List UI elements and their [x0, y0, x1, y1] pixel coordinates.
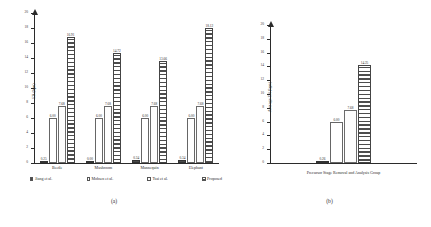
bar-group-a-mushroom: 0.006.007.6814.72Mushroom	[80, 14, 126, 163]
bar-group-a-mannequin: 0.346.007.6813.66Mannequin	[127, 14, 173, 163]
bar-a-0-2[interactable]: 7.68	[58, 106, 66, 163]
bar-a-3-1[interactable]: 6.00	[187, 118, 195, 163]
legend-swatch-icon	[202, 177, 205, 180]
legend-label: Tsai et al.	[152, 177, 167, 181]
plot-area-a: 02468101214161820 ER (bpn) 0.256.007.681…	[34, 14, 219, 164]
y-tick-label-a-14: 14	[24, 56, 28, 60]
bar-value-label: 6.00	[96, 115, 102, 118]
bar-value-label: 0.34	[133, 157, 139, 160]
bar-value-label: 6.00	[142, 115, 148, 118]
figure-root: 02468101214161820 ER (bpn) 0.256.007.681…	[0, 0, 431, 227]
panel-caption-b: (b)	[228, 198, 431, 204]
bar-a-2-3[interactable]: 13.66	[159, 61, 167, 163]
y-tick-label-b-14: 14	[260, 65, 264, 69]
bar-value-label: 0.00	[87, 158, 93, 161]
y-tick-label-a-10: 10	[24, 86, 28, 90]
bar-a-2-1[interactable]: 6.00	[141, 118, 149, 163]
bar-group-a-elephant: 0.346.007.6818.12Elephant	[173, 14, 219, 163]
bar-groups-b: 0.266.007.6814.25	[270, 26, 417, 163]
bar-value-label: 16.91	[67, 34, 75, 37]
y-tick-label-b-0: 0	[262, 161, 264, 165]
bar-a-0-3[interactable]: 16.91	[67, 37, 75, 163]
bar-value-label: 7.68	[59, 103, 65, 106]
bar-value-label: 13.66	[159, 58, 167, 61]
panel-b: 02468101214161820 Average ER (bpn) 0.266…	[228, 0, 431, 227]
y-tick-label-b-4: 4	[262, 134, 264, 138]
y-tick-label-b-12: 12	[260, 78, 264, 82]
legend-swatch-icon	[147, 177, 150, 180]
bar-value-label: 0.25	[41, 158, 47, 161]
legend-swatch-icon	[87, 177, 90, 180]
y-tick-label-a-4: 4	[26, 131, 28, 135]
x-axis-label-b: Precursor Stage Removal and Analysis Gro…	[270, 170, 417, 175]
y-tick-label-b-20: 20	[260, 23, 264, 27]
y-tick-label-b-6: 6	[262, 120, 264, 124]
bar-a-2-0[interactable]: 0.34	[132, 160, 140, 163]
y-tick-b-0: 0	[267, 163, 270, 164]
bar-b-0-0[interactable]: 0.26	[316, 161, 329, 163]
legend-a: Jiang et al.Mohsen et al.Tsai et al.Prop…	[30, 177, 222, 181]
bar-a-1-2[interactable]: 7.68	[104, 106, 112, 163]
legend-item-a-1[interactable]: Mohsen et al.	[87, 177, 114, 181]
y-tick-label-a-12: 12	[24, 71, 28, 75]
bar-group-b-main: 0.266.007.6814.25	[270, 26, 417, 163]
bar-a-1-1[interactable]: 6.00	[95, 118, 103, 163]
bar-value-label: 7.68	[151, 103, 157, 106]
bar-value-label: 6.00	[334, 119, 340, 122]
bar-value-label: 6.00	[50, 115, 56, 118]
y-tick-label-b-10: 10	[260, 92, 264, 96]
legend-label: Jiang et al.	[35, 177, 52, 181]
y-tick-label-b-2: 2	[262, 147, 264, 151]
y-tick-label-a-20: 20	[24, 11, 28, 15]
bar-a-3-0[interactable]: 0.34	[178, 160, 186, 163]
panel-caption-a: (a)	[0, 198, 228, 204]
bar-value-label: 7.68	[348, 107, 354, 110]
y-tick-label-b-16: 16	[260, 51, 264, 55]
x-axis-b	[270, 163, 417, 164]
bar-group-a-beetle: 0.256.007.6816.91Beetle	[34, 14, 80, 163]
panel-a: 02468101214161820 ER (bpn) 0.256.007.681…	[0, 0, 228, 227]
y-tick-label-a-0: 0	[26, 161, 28, 165]
bar-b-0-3[interactable]: 14.25	[358, 65, 371, 163]
y-tick-label-a-2: 2	[26, 146, 28, 150]
y-tick-label-a-8: 8	[26, 101, 28, 105]
y-tick-label-a-18: 18	[24, 26, 28, 30]
y-tick-label-a-6: 6	[26, 116, 28, 120]
group-label-a-3: Elephant	[167, 166, 225, 171]
legend-item-a-2[interactable]: Tsai et al.	[147, 177, 167, 181]
legend-swatch-icon	[30, 177, 33, 180]
bar-a-3-3[interactable]: 18.12	[205, 28, 213, 163]
bar-b-0-1[interactable]: 6.00	[330, 122, 343, 163]
bar-value-label: 0.34	[179, 157, 185, 160]
x-axis-a	[34, 163, 219, 164]
legend-item-a-3[interactable]: Proposed	[202, 177, 222, 181]
bar-a-1-0[interactable]: 0.00	[86, 161, 94, 163]
bar-value-label: 18.12	[206, 25, 214, 28]
bar-value-label: 14.72	[113, 50, 121, 53]
bar-a-2-2[interactable]: 7.68	[150, 106, 158, 163]
bar-value-label: 14.25	[361, 62, 369, 65]
bar-value-label: 6.00	[188, 115, 194, 118]
y-tick-label-b-18: 18	[260, 37, 264, 41]
bar-value-label: 7.68	[197, 103, 203, 106]
y-tick-label-b-8: 8	[262, 106, 264, 110]
y-tick-a-0: 0	[31, 163, 34, 164]
y-tick-label-a-16: 16	[24, 41, 28, 45]
bar-value-label: 0.26	[320, 158, 326, 161]
legend-label: Mohsen et al.	[91, 177, 113, 181]
legend-label: Proposed	[207, 177, 222, 181]
bar-a-3-2[interactable]: 7.68	[196, 106, 204, 163]
bar-a-0-0[interactable]: 0.25	[40, 161, 48, 163]
bar-groups-a: 0.256.007.6816.91Beetle0.006.007.6814.72…	[34, 14, 219, 163]
bar-a-1-3[interactable]: 14.72	[113, 53, 121, 163]
legend-item-a-0[interactable]: Jiang et al.	[30, 177, 52, 181]
bar-a-0-1[interactable]: 6.00	[49, 118, 57, 163]
bar-b-0-2[interactable]: 7.68	[344, 110, 357, 163]
plot-area-b: 02468101214161820 Average ER (bpn) 0.266…	[270, 26, 417, 164]
bar-value-label: 7.68	[105, 103, 111, 106]
